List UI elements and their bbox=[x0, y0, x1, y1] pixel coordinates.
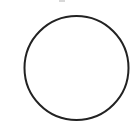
circle-figure bbox=[0, 0, 134, 121]
diagram-canvas bbox=[0, 0, 134, 121]
circle-shape bbox=[25, 16, 129, 120]
top-edge-mark bbox=[59, 0, 65, 2]
